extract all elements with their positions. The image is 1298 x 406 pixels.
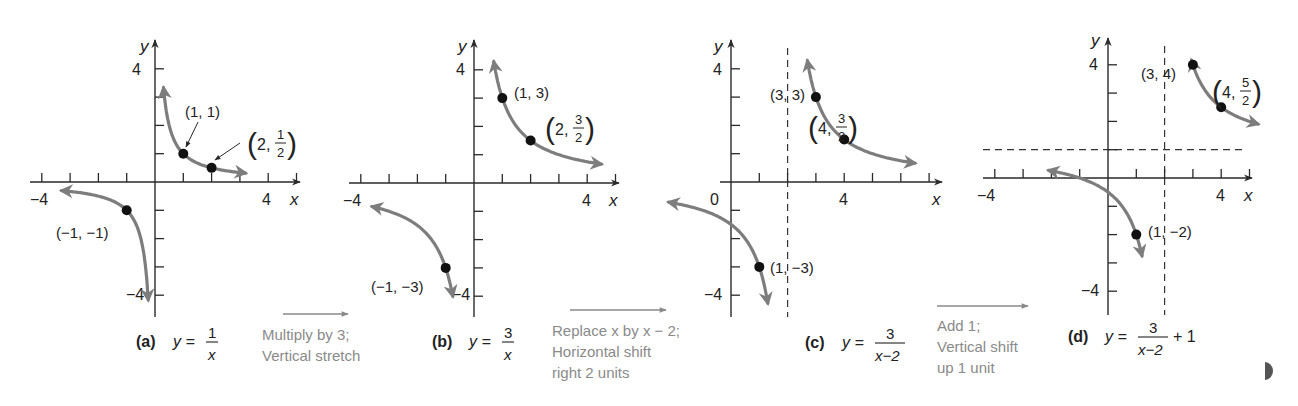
- fraction-numerator: 5: [1242, 75, 1249, 90]
- x-tick-label: −4: [977, 187, 995, 204]
- graph-caption: (d)y =3x−2+ 1: [1068, 319, 1196, 358]
- point-label-text: (3, 4): [1141, 65, 1176, 82]
- data-point: [811, 92, 821, 102]
- paren-open: (: [1212, 75, 1222, 108]
- caption-denominator: x−2: [1137, 341, 1163, 358]
- transition-text-2: Replace x by x − 2; Horizontal shift rig…: [552, 322, 680, 381]
- point-label: (−1, −3): [371, 278, 424, 295]
- paren-close: ): [287, 127, 297, 160]
- data-point: [441, 263, 451, 273]
- point-label: (2,12): [247, 127, 297, 160]
- point-label: (1, 1): [185, 103, 220, 120]
- graph-panel-b: −444−4xy(1, 3)(2,32)(−1, −3)(b)y =3x: [343, 37, 619, 363]
- point-label-text: (3, 3): [770, 86, 805, 103]
- point-label-text: (1, −3): [770, 259, 814, 276]
- transition-line: right 2 units: [552, 364, 630, 381]
- y-tick-label: −4: [704, 286, 722, 303]
- point-label-text: (1, 1): [185, 103, 220, 120]
- data-point: [497, 93, 507, 103]
- caption-numerator: 3: [1149, 319, 1157, 336]
- transition-line: Multiply by 3;: [262, 326, 350, 343]
- point-label-text: (1, 3): [514, 84, 549, 101]
- point-label-text: (1, −2): [1148, 223, 1192, 240]
- curve-branch-lower: [1049, 170, 1142, 255]
- label-pointer-arrow: [215, 143, 240, 160]
- half-circle-marker-icon: [1265, 362, 1273, 380]
- data-point: [754, 262, 764, 272]
- fraction-numerator: 3: [575, 112, 582, 127]
- x-tick-label: 4: [1216, 187, 1225, 204]
- data-point: [178, 149, 188, 159]
- fraction-denominator: 2: [575, 130, 582, 145]
- y-tick-label: 4: [713, 61, 722, 78]
- point-label-x: 4,: [1222, 84, 1235, 101]
- caption-numerator: 3: [886, 325, 894, 342]
- fraction-denominator: 2: [277, 145, 284, 160]
- y-axis-label: y: [457, 37, 468, 56]
- data-point: [207, 163, 217, 173]
- data-point: [122, 205, 132, 215]
- data-point: [1131, 230, 1141, 240]
- y-axis-label: y: [1090, 31, 1101, 50]
- caption-numerator: 3: [504, 324, 512, 341]
- caption-denominator: x: [503, 346, 512, 363]
- point-label-x: 2,: [257, 136, 270, 153]
- transition-line: Add 1;: [937, 317, 980, 334]
- y-tick-label: 4: [456, 61, 465, 78]
- paren-open: (: [247, 127, 257, 160]
- point-label: (3, 3): [770, 86, 805, 103]
- x-tick-label: 4: [839, 191, 848, 208]
- caption-panel-letter: (c): [805, 334, 825, 351]
- point-label-x: 4,: [818, 120, 831, 137]
- x-axis-label: x: [931, 190, 941, 209]
- fraction-numerator: 1: [277, 127, 284, 142]
- paren-open: (: [808, 111, 818, 144]
- transition-text-1: Multiply by 3; Vertical stretch: [262, 326, 360, 364]
- point-label: (1, −2): [1148, 223, 1192, 240]
- y-tick-label: −4: [452, 286, 470, 303]
- point-label: (3, 4): [1141, 65, 1176, 82]
- y-axis-label: y: [713, 37, 724, 56]
- transition-line: Replace x by x − 2;: [552, 322, 680, 339]
- point-label: (1, 3): [514, 84, 549, 101]
- x-tick-label: 4: [582, 192, 591, 209]
- transformations-figure: −444−4xy(1, 1)(2,12)(−1, −1)(a)y =1x −44…: [0, 0, 1298, 406]
- point-label-text: (−1, −1): [56, 224, 109, 241]
- y-tick-label: −4: [1081, 282, 1099, 299]
- point-label-text: (−1, −3): [371, 278, 424, 295]
- graph-caption: (b)y =3x: [432, 324, 514, 363]
- point-label: (4,52): [1212, 75, 1262, 108]
- caption-panel-letter: (d): [1068, 328, 1088, 345]
- curve-branch-lower: [62, 191, 149, 300]
- y-tick-label: −4: [126, 286, 144, 303]
- paren-open: (: [545, 112, 555, 145]
- caption-denominator: x−2: [874, 347, 900, 364]
- x-axis-label: x: [1243, 186, 1253, 205]
- curve-branch-upper: [164, 88, 246, 174]
- caption-equation-lhs: y =: [841, 334, 864, 351]
- x-tick-label: −4: [30, 191, 48, 208]
- point-label: (2,32): [545, 112, 595, 145]
- data-point: [1188, 60, 1198, 70]
- x-axis-label: x: [608, 191, 618, 210]
- figure-canvas: −444−4xy(1, 1)(2,12)(−1, −1)(a)y =1x −44…: [0, 0, 1298, 406]
- caption-panel-letter: (b): [432, 333, 452, 350]
- graph-panel-a: −444−4xy(1, 1)(2,12)(−1, −1)(a)y =1x: [30, 37, 300, 363]
- caption-suffix: + 1: [1173, 328, 1196, 345]
- y-axis-label: y: [139, 37, 150, 56]
- x-tick-label: 4: [262, 191, 271, 208]
- paren-close: ): [848, 111, 858, 144]
- x-tick-label: −4: [343, 192, 361, 209]
- data-point: [526, 136, 536, 146]
- graph-panel-d: −444−4xy(3, 4)(4,52)(1, −2)(d)y =3x−2+ 1: [977, 31, 1262, 358]
- label-pointer-arrow: [186, 122, 198, 147]
- point-label: (1, −3): [770, 259, 814, 276]
- transition-line: Vertical stretch: [262, 347, 360, 364]
- caption-numerator: 1: [208, 324, 216, 341]
- y-tick-label: 4: [1089, 56, 1098, 73]
- paren-close: ): [1252, 75, 1262, 108]
- transition-line: up 1 unit: [937, 359, 995, 376]
- graph-caption: (a)y =1x: [136, 324, 218, 363]
- graph-panel-c: 044−4xy(3, 3)(4,32)(1, −3)(c)y =3x−2: [669, 37, 942, 364]
- transition-line: Vertical shift: [937, 338, 1019, 355]
